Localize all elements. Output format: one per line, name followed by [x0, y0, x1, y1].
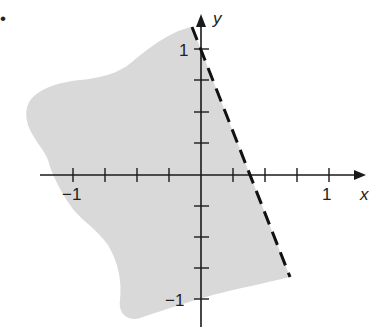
y-axis-arrow-icon — [196, 14, 206, 27]
x-axis-label: x — [359, 185, 369, 204]
marker-dot: • — [0, 9, 6, 28]
x-tick-label-1: 1 — [322, 185, 331, 204]
y-tick-label-neg1: −1 — [165, 291, 184, 310]
x-axis-arrow-icon — [354, 170, 366, 180]
y-axis-label: y — [212, 9, 223, 28]
y-tick-label-1: 1 — [179, 41, 188, 60]
x-tick-label-neg1: −1 — [62, 185, 81, 204]
inequality-graph: 1 −1 −1 1 y x • — [0, 0, 369, 327]
